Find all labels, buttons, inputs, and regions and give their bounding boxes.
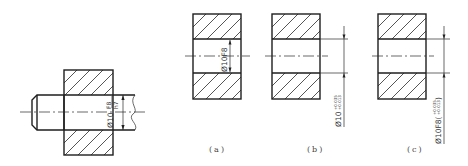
hub-outline — [64, 70, 113, 155]
hatch-line — [444, 14, 468, 39]
hatch-line — [246, 73, 272, 99]
hatch-line — [286, 14, 311, 39]
hatch-line — [206, 73, 232, 99]
part-c-lower-deviation: +0.013 — [436, 100, 441, 115]
hatch-line — [117, 70, 142, 95]
part-b: Ø10 +0.035 +0.013 (b) — [246, 14, 363, 154]
hatch-line — [311, 73, 337, 99]
part-c-dimension-text: Ø10F8( — [434, 116, 443, 144]
part-b-lower-deviation: +0.013 — [337, 95, 342, 110]
hatch-line — [245, 73, 271, 99]
part-a-outline — [193, 14, 241, 99]
hatch-line — [193, 73, 219, 99]
hatch-line — [392, 14, 417, 39]
fit-label: Ø10 — [106, 112, 115, 128]
hatch-line — [353, 14, 378, 39]
hatch-line — [117, 130, 142, 155]
hatch-line — [130, 70, 155, 95]
hatch-line — [167, 73, 193, 99]
fit-dimension: Ø10 F8 h7 — [105, 95, 125, 130]
hatch-line — [352, 73, 378, 99]
hatch-line — [104, 70, 129, 95]
hatch-line — [417, 73, 443, 99]
shaft-outline — [32, 95, 135, 130]
hatch-line — [273, 14, 298, 39]
hatch-line — [78, 130, 103, 155]
drawing-canvas: Ø10 F8 h7 Ø10F8 (a) Ø10 +0.035 +0.013 — [0, 0, 468, 166]
hatch-line — [65, 70, 90, 95]
hatch-line — [391, 73, 417, 99]
hatch-line — [91, 70, 116, 95]
part-a: Ø10F8 (a) — [167, 14, 284, 154]
hatch-line — [337, 73, 363, 99]
part-c: Ø10F8( +0.035 +0.013 ) (c) — [352, 14, 468, 154]
hatch-line — [324, 73, 350, 99]
hatch-line — [207, 14, 232, 39]
part-c-closing-paren: ) — [434, 97, 443, 100]
caption-c: (c) — [407, 145, 424, 154]
hatch-line — [378, 73, 404, 99]
hatch-line — [379, 14, 404, 39]
hub-hatch — [39, 70, 155, 155]
hatch-line — [130, 130, 155, 155]
hatch-line — [39, 130, 64, 155]
hatch-line — [272, 73, 298, 99]
caption-b: (b) — [307, 145, 324, 154]
hatch-line — [78, 70, 103, 95]
hatch-line — [233, 14, 258, 39]
hole-tolerance: F8 — [105, 102, 112, 109]
hatch-line — [104, 130, 129, 155]
svg-text:Ø10: Ø10 — [106, 112, 115, 128]
caption-a: (a) — [209, 145, 226, 154]
hatch-line — [338, 14, 363, 39]
part-b-dimension-text: Ø10 — [334, 111, 343, 127]
part-c-outline — [378, 14, 426, 99]
hatch-line — [194, 14, 219, 39]
shaft-break-line — [131, 95, 136, 130]
hatch-line — [65, 130, 90, 155]
hatch-line — [418, 14, 443, 39]
part-b-outline — [272, 14, 320, 99]
shaft-tolerance: h7 — [112, 101, 119, 109]
hatch-line — [325, 14, 350, 39]
hatch-line — [39, 70, 64, 95]
hatch-line — [246, 14, 271, 39]
hatch-line — [443, 73, 468, 99]
hatch-line — [232, 73, 258, 99]
part-a-dimension-text: Ø10F8 — [220, 47, 229, 72]
assembly-view: Ø10 F8 h7 — [20, 70, 155, 155]
hatch-line — [258, 73, 284, 99]
hatch-line — [168, 14, 193, 39]
hatch-line — [285, 73, 311, 99]
hatch-line — [91, 130, 116, 155]
hatch-line — [247, 14, 272, 39]
hatch-line — [312, 14, 337, 39]
